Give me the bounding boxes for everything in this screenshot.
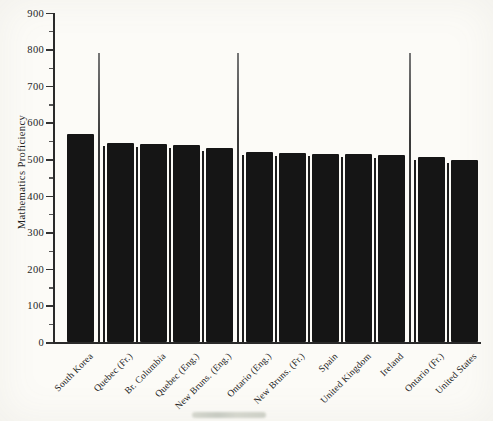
bar-quebec-fr	[107, 143, 134, 342]
y-tick-label: 300	[12, 227, 44, 238]
bar-ontario-eng	[246, 152, 273, 342]
bar-divider-line	[242, 155, 244, 342]
y-tick-label: 500	[12, 154, 44, 165]
bar-divider-line	[275, 156, 277, 342]
scan-artifact	[192, 412, 266, 418]
y-tick	[46, 232, 53, 234]
bar-divider-line	[202, 151, 204, 342]
y-minor-tick	[49, 324, 53, 326]
group-separator-line	[237, 53, 239, 342]
x-axis-line	[53, 342, 481, 344]
bar-ontario-fr	[418, 157, 445, 342]
bar-divider-line	[414, 160, 416, 342]
y-tick	[46, 305, 53, 307]
y-minor-tick	[49, 287, 53, 289]
x-category-label: South Korea	[52, 351, 94, 393]
y-tick	[46, 49, 53, 51]
y-tick-label: 200	[12, 264, 44, 275]
bar-united-states	[451, 160, 478, 342]
y-tick	[46, 122, 53, 124]
bar-divider-line	[308, 156, 310, 342]
y-tick	[46, 13, 53, 15]
y-minor-tick	[49, 214, 53, 216]
y-axis-title: Mathematics Proficiency	[16, 115, 27, 229]
bar-br-columbia	[140, 144, 167, 342]
bar-new-bruns-fr	[279, 153, 306, 342]
y-tick-label: 600	[12, 117, 44, 128]
group-separator-line	[98, 53, 100, 342]
x-category-label: New Bruns. (Eng.)	[173, 351, 233, 411]
y-tick	[46, 86, 53, 88]
bar-divider-line	[103, 146, 105, 342]
y-tick	[46, 342, 53, 344]
y-tick-label: 100	[12, 300, 44, 311]
bar-spain	[312, 154, 339, 342]
bar-divider-line	[136, 147, 138, 342]
bar-quebec-eng	[173, 145, 200, 342]
bar-south-korea	[67, 134, 94, 342]
y-minor-tick	[49, 104, 53, 106]
bar-new-bruns-eng	[206, 148, 233, 342]
bar-ireland	[378, 155, 405, 342]
y-axis-line	[53, 13, 55, 344]
y-minor-tick	[49, 68, 53, 70]
figure: Mathematics Proficiency 0100200300400500…	[0, 0, 493, 421]
y-tick	[46, 269, 53, 271]
y-minor-tick	[49, 141, 53, 143]
y-tick-label: 0	[12, 337, 44, 348]
y-tick	[46, 159, 53, 161]
bar-divider-line	[341, 157, 343, 342]
bar-united-kingdom	[345, 154, 372, 342]
group-separator-line	[409, 53, 411, 342]
y-minor-tick	[49, 31, 53, 33]
y-minor-tick	[49, 251, 53, 253]
y-tick-label: 700	[12, 81, 44, 92]
bar-divider-line	[169, 148, 171, 342]
y-tick-label: 900	[12, 8, 44, 19]
y-tick-label: 800	[12, 44, 44, 55]
x-category-label: Spain	[316, 351, 339, 374]
x-category-label: Ireland	[378, 351, 405, 378]
y-tick	[46, 196, 53, 198]
bar-divider-line	[447, 163, 449, 342]
bar-divider-line	[374, 158, 376, 342]
y-tick-label: 400	[12, 191, 44, 202]
y-minor-tick	[49, 177, 53, 179]
